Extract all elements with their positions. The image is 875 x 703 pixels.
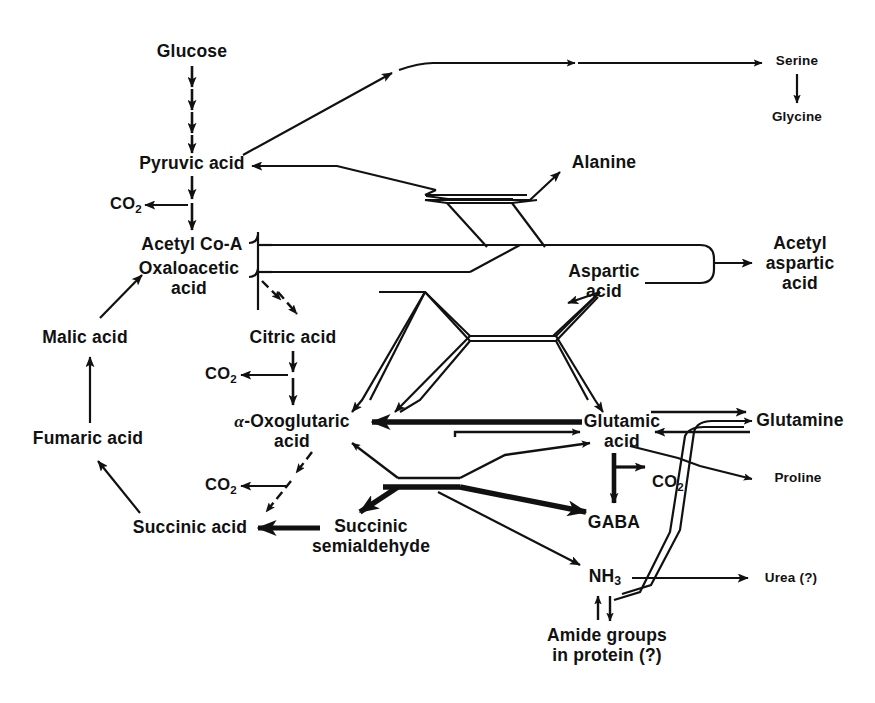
node-acetyl-coa[interactable]: Acetyl Co-A	[141, 235, 242, 255]
node-acetyl-aspartic-acid[interactable]: Acetyl aspartic acid	[766, 234, 835, 294]
node-glucose[interactable]: Glucose	[157, 42, 227, 62]
node-succinic-acid[interactable]: Succinic acid	[133, 518, 247, 538]
node-citric-acid[interactable]: Citric acid	[250, 328, 337, 348]
edge-gaba-shunt	[352, 443, 590, 512]
edge-glutamic-to-nh3	[438, 492, 580, 565]
node-alanine[interactable]: Alanine	[572, 153, 637, 173]
edge-pyruvic-to-serine	[243, 63, 762, 155]
node-malic-acid[interactable]: Malic acid	[42, 328, 128, 348]
edge-oxaloacetic-to-citric	[278, 292, 297, 314]
node-oxaloacetic-acid[interactable]: Oxaloacetic acid	[139, 259, 239, 299]
edge-aspartic-bracket-join	[645, 245, 752, 283]
node-pyruvic-acid[interactable]: Pyruvic acid	[139, 154, 245, 174]
node-fumaric-acid[interactable]: Fumaric acid	[33, 429, 143, 449]
edge-acetyl-oxalo-bracket	[249, 232, 272, 310]
node-gaba[interactable]: GABA	[588, 513, 640, 533]
node-succinic-semialdehyde[interactable]: Succinic semialdehyde	[312, 517, 430, 557]
edge-nh3-to-amide	[598, 596, 610, 621]
edge-into-pyruvic	[252, 166, 436, 190]
node-proline[interactable]: Proline	[774, 470, 821, 485]
node-co2-from-pyruvate: CO2	[110, 194, 142, 215]
pathway-edges-layer	[0, 0, 875, 703]
node-aspartic-acid[interactable]: Aspartic acid	[568, 262, 640, 302]
node-alpha-oxoglutaric-acid[interactable]: α-Oxoglutaric acid	[234, 412, 349, 452]
node-urea[interactable]: Urea (?)	[765, 570, 818, 585]
node-glutamic-acid[interactable]: Glutamic acid	[584, 412, 660, 452]
node-glycine[interactable]: Glycine	[772, 109, 822, 124]
node-co2-from-citrate: CO2	[205, 364, 237, 385]
edge-oxoglutaric-to-succinic	[266, 452, 312, 512]
node-serine[interactable]: Serine	[776, 53, 818, 68]
node-co2-from-oxoglutarate: CO2	[205, 475, 237, 496]
node-amide-groups-in-protein[interactable]: Amide groups in protein (?)	[547, 626, 667, 666]
node-glutamine[interactable]: Glutamine	[756, 411, 843, 431]
node-ammonia[interactable]: NH3	[589, 567, 622, 589]
edge-succinic-to-fumaric	[98, 461, 140, 513]
edge-acetyl-to-citric	[262, 281, 281, 300]
edge-malic-to-oxaloacetic	[100, 275, 142, 318]
pathway-diagram: Glucose Pyruvic acid CO2 Acetyl Co-A Oxa…	[0, 0, 875, 703]
edge-oxoglutaric-glutamic-bold	[372, 422, 582, 437]
node-co2-from-glutamate: CO2	[652, 472, 684, 493]
